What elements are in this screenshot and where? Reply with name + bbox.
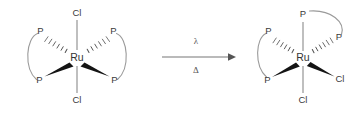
- reaction-arrow: λ Δ: [162, 36, 236, 75]
- bond-ru-p-upper-left-hashed: [45, 37, 67, 53]
- bond-ru-p-upper-right-hashed: [312, 38, 333, 53]
- scheme-canvas: Cl Cl P P P P Ru λ Δ: [0, 0, 359, 114]
- product-label-cl-bottom: Cl: [299, 94, 308, 105]
- reactant-label-cl-top: Cl: [73, 7, 82, 18]
- arrow-condition-below: Δ: [193, 65, 199, 75]
- reactant-label-p-lower-left: P: [36, 74, 42, 85]
- reactant-label-ru: Ru: [70, 51, 84, 63]
- product-label-p-lower-left: P: [264, 74, 270, 85]
- product-structure: P Cl P P P Cl Ru: [258, 8, 345, 105]
- bond-ru-p-lower-left-wedge: [272, 63, 300, 78]
- reactant-label-cl-bottom: Cl: [73, 94, 82, 105]
- arrow-head: [228, 53, 236, 61]
- reactant-label-p-upper-left: P: [37, 25, 43, 36]
- product-label-p-upper-right: P: [336, 31, 342, 42]
- arrow-condition-above: λ: [194, 36, 199, 46]
- chelate-linker-left: [28, 34, 38, 80]
- reactant-structure: Cl Cl P P P P Ru: [28, 7, 126, 105]
- bond-ru-p-upper-left-hashed: [273, 38, 294, 53]
- reactant-label-p-lower-right: P: [111, 74, 117, 85]
- product-label-ru: Ru: [296, 51, 310, 63]
- product-label-cl-right: Cl: [336, 73, 345, 84]
- chelate-linker-left: [258, 34, 267, 78]
- reaction-scheme: Cl Cl P P P P Ru λ Δ: [0, 0, 359, 114]
- product-label-p-top: P: [300, 8, 306, 19]
- bond-ru-p-lower-left-wedge: [45, 63, 74, 77]
- chelate-linker-right: [117, 34, 127, 80]
- bond-ru-p-lower-right-wedge: [81, 63, 110, 77]
- bond-ru-p-upper-right-hashed: [87, 37, 109, 53]
- product-label-p-upper-left: P: [265, 25, 271, 36]
- reactant-label-p-upper-right: P: [110, 25, 116, 36]
- bond-ru-cl-right-wedge: [307, 62, 335, 77]
